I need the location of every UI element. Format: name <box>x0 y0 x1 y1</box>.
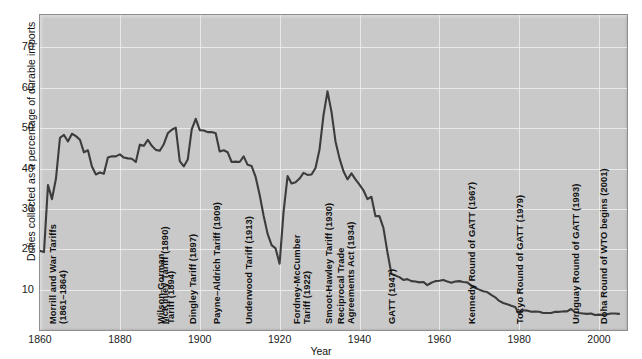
y-tick-label: 20 <box>8 242 34 254</box>
x-tick-label: 1980 <box>508 333 531 345</box>
x-axis-title: Year <box>0 345 642 357</box>
annotation-smoot-hawley: Smoot-Hawley Tariff (1930) <box>324 203 334 324</box>
x-tick-label: 1900 <box>188 333 211 345</box>
chart-root: Duties collected as a percentage of dura… <box>0 0 642 359</box>
y-tick-label: 70 <box>8 40 34 52</box>
plot-area: Morrill and War Tariffs (1861–1864)McKin… <box>39 14 628 331</box>
annotation-dingley: Dingley Tariff (1897) <box>188 234 198 324</box>
annotation-uruguay-round: Uruguay Round of GATT (1993) <box>571 183 581 324</box>
x-tick-label: 2000 <box>587 333 610 345</box>
annotation-doha-round: Doha Round of WTO begins (2001) <box>599 168 609 324</box>
y-tick-label: 50 <box>8 121 34 133</box>
annotation-rtaa: Reciprocal Trade Agreements Act (1934) <box>336 221 357 324</box>
annotation-fordney: Fordney-McCumber Tariff (1922) <box>292 235 313 324</box>
annotation-payne-aldrich: Payne–Aldrich Tariff (1909) <box>212 202 222 324</box>
annotation-underwood: Underwood Tariff (1913) <box>244 216 254 324</box>
x-tick-label: 1860 <box>28 333 51 345</box>
annotation-morrill: Morrill and War Tariffs (1861–1864) <box>48 224 69 324</box>
x-tick-label: 1960 <box>428 333 451 345</box>
y-tick-label: 40 <box>8 162 34 174</box>
annotation-gatt: GATT (1947) <box>387 269 397 324</box>
y-tick-label: 60 <box>8 81 34 93</box>
annotation-wilson-gorman: Wilson-Gorman Tariff (1894) <box>156 254 177 324</box>
x-tick-label: 1880 <box>108 333 131 345</box>
y-tick-label: 10 <box>8 283 34 295</box>
annotation-kennedy-round: Kennedy Round of GATT (1967) <box>467 182 477 324</box>
y-tick-label: 30 <box>8 202 34 214</box>
x-tick-label: 1920 <box>268 333 291 345</box>
x-tick-label: 1940 <box>348 333 371 345</box>
annotation-tokyo-round: Tokyo Round of GATT (1979) <box>515 195 525 324</box>
